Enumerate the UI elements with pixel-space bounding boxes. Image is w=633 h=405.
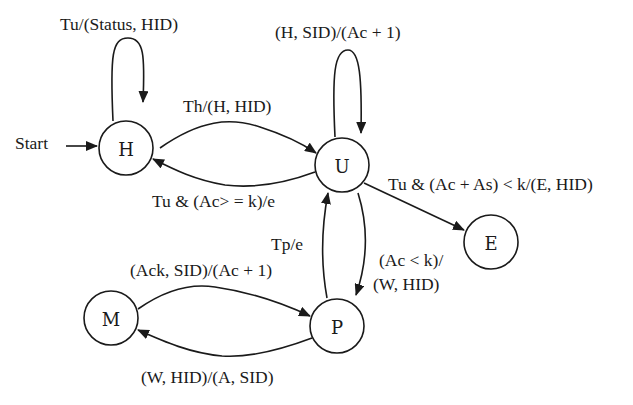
label-p-to-m: (W, HID)/(A, SID) (141, 367, 274, 387)
label-h-to-u: Th/(H, HID) (183, 96, 272, 116)
state-m: M (84, 291, 138, 345)
start-label: Start (15, 133, 48, 153)
state-e: E (464, 215, 518, 269)
state-p: P (310, 299, 364, 353)
edge-u-to-p (356, 193, 365, 295)
state-e-label: E (484, 233, 497, 254)
state-m-label: M (102, 309, 120, 330)
state-diagram: H U E M P Start Tu/(Status, HID) Th/(H, … (0, 0, 633, 405)
state-p-label: P (331, 317, 343, 338)
edge-h-to-u (160, 122, 316, 153)
label-u-to-p-line1: (Ac < k)/ (379, 250, 443, 270)
label-p-to-u: Tp/e (271, 234, 303, 254)
edge-u-self-loop (334, 50, 361, 137)
label-m-to-p: (Ack, SID)/(Ac + 1) (130, 260, 272, 280)
label-h-self-loop: Tu/(Status, HID) (60, 14, 178, 34)
label-u-to-p-line2: (W, HID) (373, 274, 440, 294)
edge-p-to-m (138, 330, 312, 356)
label-u-to-h: Tu & (Ac> = k)/e (152, 191, 275, 211)
state-u: U (315, 138, 369, 192)
edge-u-to-h (153, 159, 315, 186)
edge-h-self-loop (112, 38, 144, 121)
state-u-label: U (334, 156, 349, 177)
state-h: H (99, 121, 153, 175)
label-u-self-loop: (H, SID)/(Ac + 1) (275, 22, 401, 42)
edge-p-to-u (323, 193, 328, 298)
state-h-label: H (118, 139, 134, 160)
label-u-to-e: Tu & (Ac + As) < k/(E, HID) (388, 174, 593, 194)
edge-m-to-p (138, 286, 310, 316)
